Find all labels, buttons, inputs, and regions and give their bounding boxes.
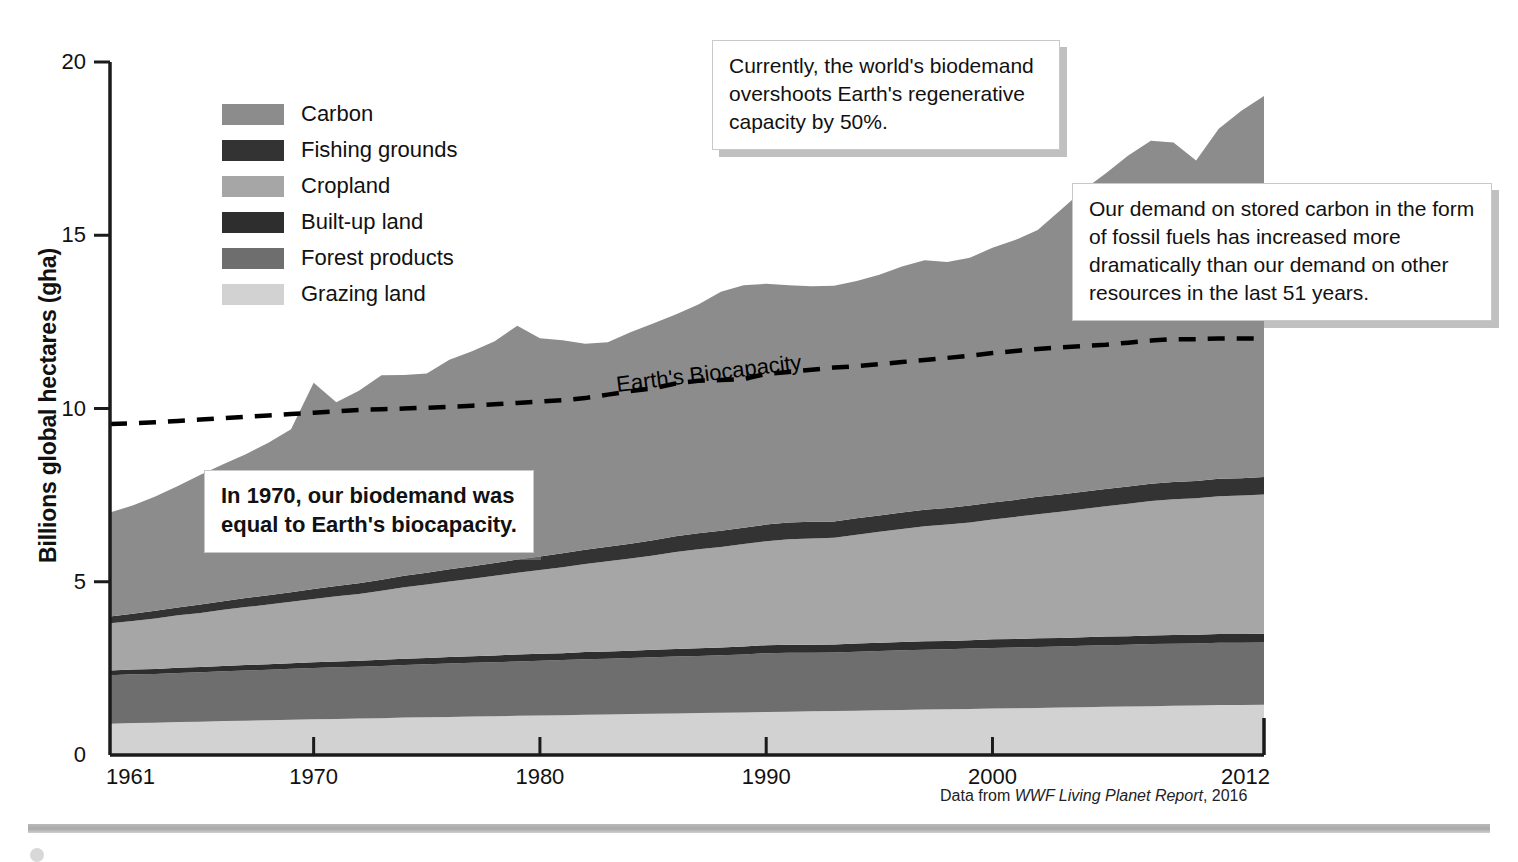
legend-item[interactable]: Built-up land <box>222 204 552 240</box>
legend-swatch-icon <box>222 212 284 233</box>
x-tick-label: 1961 <box>106 764 155 790</box>
page-marker-dot <box>30 848 44 862</box>
y-tick-label: 20 <box>26 49 86 75</box>
legend-swatch-icon <box>222 284 284 305</box>
source-prefix: Data from <box>940 787 1015 804</box>
legend-swatch-icon <box>222 104 284 125</box>
legend-swatch-icon <box>222 248 284 269</box>
footer-divider <box>28 824 1490 833</box>
callout-carbon-demand: Our demand on stored carbon in the form … <box>1072 183 1492 321</box>
legend-item-label: Forest products <box>301 247 454 269</box>
callout-1970-biodemand: In 1970, our biodemand was equal to Eart… <box>204 470 534 553</box>
x-tick-label: 1980 <box>515 764 564 790</box>
legend-item-label: Built-up land <box>301 211 423 233</box>
legend-item[interactable]: Fishing grounds <box>222 132 552 168</box>
legend-item[interactable]: Forest products <box>222 240 552 276</box>
y-axis-title: Billions global hectares (gha) <box>35 146 62 666</box>
legend-item-label: Carbon <box>301 103 373 125</box>
y-tick-label: 0 <box>26 742 86 768</box>
source-title: WWF Living Planet Report <box>1015 787 1203 804</box>
legend-swatch-icon <box>222 140 284 161</box>
source-note: Data from WWF Living Planet Report, 2016 <box>940 787 1247 805</box>
chart-legend: CarbonFishing groundsCroplandBuilt-up la… <box>222 96 552 312</box>
legend-item-label: Cropland <box>301 175 390 197</box>
legend-item-label: Fishing grounds <box>301 139 458 161</box>
source-suffix: , 2016 <box>1203 787 1247 804</box>
legend-swatch-icon <box>222 176 284 197</box>
x-tick-label: 1970 <box>289 764 338 790</box>
callout-overshoot: Currently, the world's biodemand oversho… <box>712 40 1060 150</box>
legend-item[interactable]: Carbon <box>222 96 552 132</box>
legend-item[interactable]: Cropland <box>222 168 552 204</box>
legend-item-label: Grazing land <box>301 283 426 305</box>
legend-item[interactable]: Grazing land <box>222 276 552 312</box>
x-tick-label: 1990 <box>742 764 791 790</box>
